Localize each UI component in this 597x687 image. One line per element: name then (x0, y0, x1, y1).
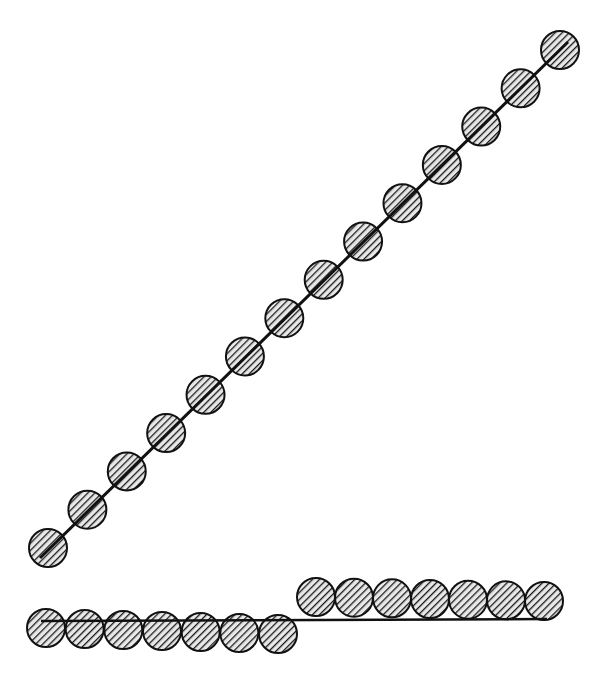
hatched-circle (29, 529, 67, 567)
hatched-circle (104, 611, 142, 649)
upper-row-chain (297, 578, 563, 620)
hatched-circle (335, 579, 373, 617)
hatched-circle (297, 578, 335, 616)
hatched-circle (411, 580, 449, 618)
hatched-circle (27, 609, 65, 647)
hatched-circle (373, 579, 411, 617)
hatched-circle (449, 581, 487, 619)
diagonal-line (40, 42, 568, 558)
hatched-circle (525, 582, 563, 620)
hatched-circle (66, 610, 104, 648)
hatched-circle (487, 581, 525, 619)
lower-row-chain (27, 609, 297, 653)
hatched-circle-chains-diagram (0, 0, 597, 687)
hatched-circle (182, 613, 220, 651)
hatched-circle (143, 612, 181, 650)
